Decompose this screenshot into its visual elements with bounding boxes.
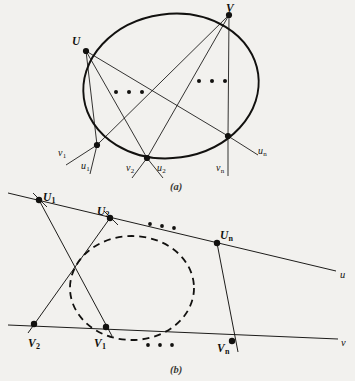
panel-b-conic (70, 236, 194, 340)
panel-a-graphics (66, 2, 268, 178)
label-V: V (226, 3, 234, 15)
point-p2 (144, 155, 150, 161)
line-u (8, 193, 336, 271)
connector-U1-V1 (39, 200, 112, 336)
ray-u-n (228, 136, 258, 155)
chord-v-p2 (147, 15, 229, 158)
label-U: U (72, 36, 80, 48)
line-v (8, 325, 338, 339)
panel-a-conic (74, 2, 268, 169)
chord-u-pn (86, 51, 228, 136)
panel-b-graphics (8, 193, 338, 352)
panel-a-ellipsis-left (114, 90, 144, 94)
caption-panel-b: (b) (170, 365, 182, 376)
figure-root: U V ν1 u1 ν2 u2 νn un (a) U1 U2 Un V2 V1… (0, 0, 355, 381)
panel-b-points (31, 197, 235, 344)
ray-u-1 (90, 145, 97, 174)
chord-v-pn (228, 15, 229, 136)
label-v-axis: ν (341, 338, 346, 349)
label-u-2: u2 (157, 163, 166, 175)
label-U2: U2 (97, 206, 110, 219)
ray-nu-2 (132, 158, 147, 178)
label-V1: V1 (94, 338, 106, 351)
panel-a-chords (86, 15, 229, 158)
chord-v-p1 (97, 15, 229, 145)
label-nu-2: ν2 (126, 163, 134, 175)
caption-panel-a: (a) (170, 182, 182, 193)
panel-b-ellipsis-bottom (146, 343, 174, 347)
label-U1: U1 (43, 192, 56, 205)
label-nu-n: νn (216, 163, 224, 175)
label-u-axis: u (340, 270, 345, 281)
label-nu-1: ν1 (58, 148, 66, 160)
point-pn (225, 133, 231, 139)
label-V2: V2 (28, 338, 40, 351)
point-V1 (103, 324, 109, 330)
label-u-n: un (258, 146, 267, 158)
label-Un: Un (220, 230, 233, 243)
connector-Un-Vn (217, 243, 238, 352)
point-Vn (229, 338, 235, 344)
point-p1 (94, 142, 100, 148)
panel-a-ellipsis-right (197, 79, 227, 83)
point-V2 (31, 321, 37, 327)
point-U1 (36, 197, 42, 203)
label-Vn: Vn (217, 343, 229, 356)
panel-b-ellipsis-top (148, 222, 176, 230)
connector-U2-V2 (28, 218, 110, 333)
label-u-1: u1 (81, 161, 90, 173)
point-U (83, 48, 89, 54)
